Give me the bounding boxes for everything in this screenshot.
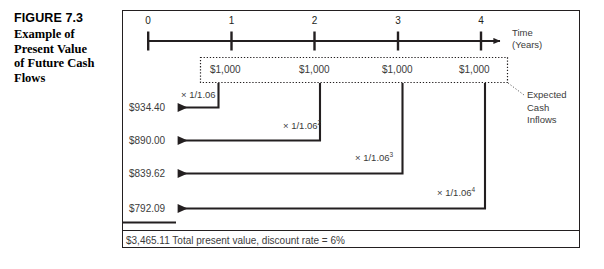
present-value-label-4: $792.09 [129, 203, 165, 214]
callout-line-2: Cash [527, 102, 567, 115]
discount-factor-text-2: × 1/1.06 [283, 120, 318, 131]
discount-factor-text-4: × 1/1.06 [437, 187, 472, 198]
present-value-label-2: $890.00 [129, 135, 165, 146]
figure-caption: FIGURE 7.3 Example of Present Value of F… [14, 11, 114, 85]
figure-title-line-1: Example of [14, 27, 114, 42]
expected-cash-inflows-callout: Expected Cash Inflows [527, 89, 567, 127]
cash-flow-label-1: $1,000 [210, 64, 270, 75]
axis-tick-label-4: 4 [469, 15, 493, 26]
axis-tick-label-3: 3 [386, 15, 410, 26]
figure-title-line-3: of Future Cash [14, 56, 114, 71]
discount-factor-label-2: × 1/1.062 [283, 120, 321, 131]
callout-line-1: Expected [527, 89, 567, 102]
figure-number: FIGURE 7.3 [14, 11, 114, 26]
axis-tick-label-0: 0 [136, 15, 160, 26]
discount-factor-label-3: × 1/1.063 [355, 152, 393, 163]
present-value-label-1: $934.40 [129, 102, 165, 113]
cash-flow-label-2: $1,000 [299, 64, 359, 75]
present-value-label-3: $839.62 [129, 168, 165, 179]
axis-title-line-2: (Years) [512, 39, 542, 51]
total-present-value-row: $3,465.11 Total present value, discount … [126, 235, 345, 246]
discount-factor-label-4: × 1/1.064 [437, 187, 475, 198]
cash-flow-label-4: $1,000 [459, 64, 519, 75]
figure-title-line-4: Flows [14, 71, 114, 86]
discount-factor-label-1: × 1/1.06 [181, 89, 216, 100]
discount-factor-text-1: × 1/1.06 [181, 89, 216, 100]
axis-tick-label-1: 1 [220, 15, 244, 26]
axis-title-line-1: Time [512, 27, 542, 39]
callout-line-3: Inflows [527, 114, 567, 127]
discount-factor-exponent-4: 4 [472, 186, 476, 193]
discount-factor-exponent-3: 3 [390, 151, 394, 158]
axis-tick-label-2: 2 [303, 15, 327, 26]
axis-title-time: Time (Years) [512, 27, 542, 51]
figure-title-line-2: Present Value [14, 42, 114, 57]
cash-flow-label-3: $1,000 [382, 64, 442, 75]
discount-factor-exponent-2: 2 [318, 119, 322, 126]
discount-factor-text-3: × 1/1.06 [355, 152, 390, 163]
